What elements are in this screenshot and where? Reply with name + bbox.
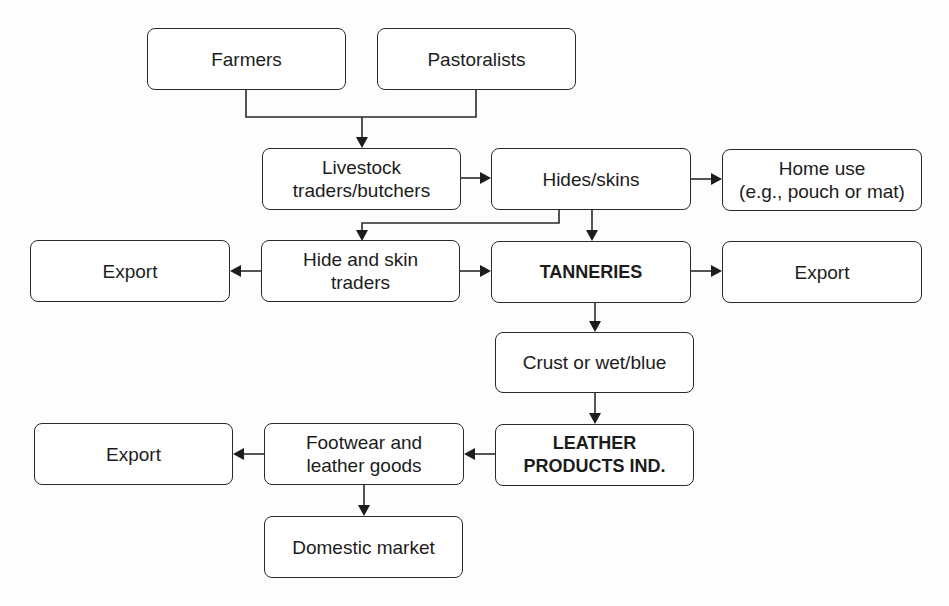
flowchart-canvas: Farmers Pastoralists Livestock traders/b…	[0, 0, 949, 606]
arrowhead-right-icon	[711, 265, 722, 277]
node-label: Pastoralists	[427, 48, 525, 71]
node-export-right: Export	[722, 241, 922, 303]
arrowhead-left-icon	[233, 448, 244, 460]
arrowhead-left-icon	[464, 448, 475, 460]
node-leather-products-ind: LEATHER PRODUCTS IND.	[495, 424, 694, 486]
node-label: Farmers	[211, 48, 282, 71]
node-footwear-leather-goods: Footwear and leather goods	[264, 423, 464, 485]
node-label: Hides/skins	[542, 168, 639, 191]
arrowhead-right-icon	[711, 173, 722, 185]
node-label: Export	[103, 260, 158, 283]
node-hides-skins: Hides/skins	[491, 148, 691, 210]
node-export-bottom: Export	[34, 423, 233, 485]
node-label: Export	[795, 261, 850, 284]
node-tanneries: TANNERIES	[491, 241, 691, 303]
arrowhead-down-icon	[589, 413, 601, 424]
node-label: Footwear and leather goods	[306, 431, 422, 477]
node-label: Domestic market	[292, 536, 435, 559]
node-export-left: Export	[30, 240, 230, 302]
node-label: Hide and skin traders	[303, 248, 418, 294]
node-domestic-market: Domestic market	[264, 516, 463, 578]
arrowhead-down-icon	[358, 505, 370, 516]
edge-farmers-pastoralists-merge	[246, 89, 476, 117]
node-pastoralists: Pastoralists	[377, 28, 576, 90]
node-label: TANNERIES	[540, 261, 643, 284]
node-label: Livestock traders/butchers	[293, 156, 430, 202]
node-home-use: Home use (e.g., pouch or mat)	[722, 149, 922, 211]
arrowhead-left-icon	[230, 265, 241, 277]
connector-lines	[0, 0, 949, 606]
arrowhead-right-icon	[480, 265, 491, 277]
arrowhead-down-icon	[589, 321, 601, 332]
node-label: Export	[106, 443, 161, 466]
node-hide-skin-traders: Hide and skin traders	[261, 240, 460, 302]
arrowhead-right-icon	[480, 172, 491, 184]
node-label: Crust or wet/blue	[523, 351, 667, 374]
node-crust-wet-blue: Crust or wet/blue	[495, 332, 694, 393]
arrowhead-down-icon	[586, 230, 598, 241]
arrowhead-down-icon	[356, 137, 368, 148]
node-label: Home use (e.g., pouch or mat)	[739, 157, 905, 203]
node-farmers: Farmers	[147, 28, 346, 90]
edge-hides-to-hide-traders	[362, 209, 559, 231]
node-livestock-traders: Livestock traders/butchers	[262, 148, 461, 210]
node-label: LEATHER PRODUCTS IND.	[523, 432, 665, 478]
